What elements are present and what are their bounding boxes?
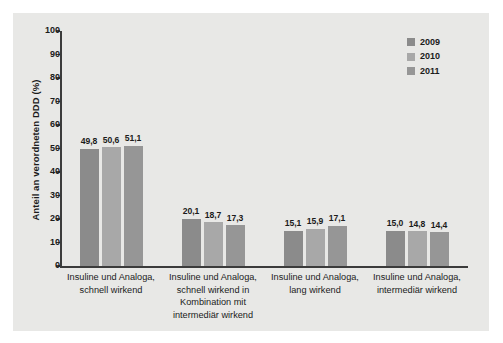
category-label-line: Insuline und Analoga, — [358, 271, 476, 284]
bar-2009-group-4 — [386, 231, 405, 266]
bar-2010-group-1 — [102, 147, 121, 266]
bar-2011-group-1 — [124, 146, 143, 266]
legend-swatch-icon — [407, 53, 415, 61]
y-axis-tick-label: 70 — [36, 97, 60, 106]
legend-swatch-icon — [407, 67, 415, 75]
bar-value-label: 17,1 — [323, 213, 352, 223]
category-label-3: Insuline und Analoga,lang wirkend — [256, 271, 374, 296]
y-axis-tick-label: 0 — [36, 261, 60, 270]
bar-2010-group-3 — [306, 229, 325, 266]
chart-legend: 200920102011 — [407, 36, 440, 80]
category-label-line: intermediär wirkend — [358, 284, 476, 297]
bar-2011-group-3 — [328, 226, 347, 266]
category-label-line: intermediär wirkend — [154, 309, 272, 322]
y-axis-tick-label: 60 — [36, 120, 60, 129]
y-axis-tick-label: 30 — [36, 191, 60, 200]
category-label-4: Insuline und Analoga,intermediär wirkend — [358, 271, 476, 296]
category-label-line: schnell wirkend in — [154, 284, 272, 297]
legend-swatch-icon — [407, 38, 415, 46]
y-axis-tick-label: 40 — [36, 167, 60, 176]
bar-2009-group-2 — [182, 219, 201, 266]
category-label-1: Insuline und Analoga,schnell wirkend — [52, 271, 170, 296]
y-axis-tick-label: 20 — [36, 214, 60, 223]
legend-item-2011: 2011 — [407, 65, 440, 77]
category-label-2: Insuline und Analoga,schnell wirkend inK… — [154, 271, 272, 321]
y-axis-tick-label: 90 — [36, 50, 60, 59]
y-axis-tick-label: 10 — [36, 238, 60, 247]
category-label-line: Insuline und Analoga, — [256, 271, 374, 284]
bar-value-label: 14,4 — [425, 220, 454, 230]
legend-label: 2009 — [420, 38, 440, 47]
x-axis-line — [60, 266, 468, 268]
bar-group: 49,850,651,1 — [60, 31, 162, 266]
legend-label: 2011 — [420, 67, 440, 76]
chart-figure: Anteil an verordneten DDD (%) 1009080706… — [0, 0, 503, 343]
y-axis-tick-label: 100 — [36, 26, 60, 35]
bar-2009-group-1 — [80, 149, 99, 266]
bar-value-label: 17,3 — [221, 213, 250, 223]
category-label-line: schnell wirkend — [52, 284, 170, 297]
y-axis-tick-label: 80 — [36, 73, 60, 82]
bar-2010-group-2 — [204, 222, 223, 266]
category-label-line: Insuline und Analoga, — [52, 271, 170, 284]
legend-label: 2010 — [420, 52, 440, 61]
bar-2011-group-4 — [430, 232, 449, 266]
category-label-line: Insuline und Analoga, — [154, 271, 272, 284]
legend-item-2009: 2009 — [407, 36, 440, 48]
bar-group: 20,118,717,3 — [162, 31, 264, 266]
category-label-line: lang wirkend — [256, 284, 374, 297]
bar-2010-group-4 — [408, 231, 427, 266]
bar-value-label: 51,1 — [119, 133, 148, 143]
y-axis-tick-label: 50 — [36, 144, 60, 153]
category-label-line: Kombination mit — [154, 296, 272, 309]
bar-2011-group-2 — [226, 225, 245, 266]
bar-group: 15,115,917,1 — [264, 31, 366, 266]
bar-2009-group-3 — [284, 231, 303, 266]
legend-item-2010: 2010 — [407, 51, 440, 63]
